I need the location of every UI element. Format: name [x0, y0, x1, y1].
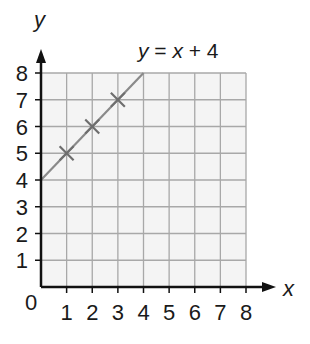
x-tick-label: 4: [137, 300, 149, 325]
x-tick-label: 6: [189, 300, 201, 325]
coordinate-plane: 1234567812345678 y x 0 y = x + 4: [0, 0, 310, 344]
y-axis-label: y: [32, 7, 47, 32]
y-tick-label: 8: [16, 61, 28, 86]
x-tick-label: 8: [240, 300, 252, 325]
x-tick-label: 3: [112, 300, 124, 325]
y-tick-label: 1: [16, 248, 28, 273]
y-tick-label: 7: [16, 88, 28, 113]
x-axis-label: x: [282, 276, 295, 301]
y-tick-label: 5: [16, 141, 28, 166]
y-tick-label: 2: [16, 222, 28, 247]
y-tick-label: 4: [16, 168, 28, 193]
y-tick-label: 6: [16, 115, 28, 140]
x-tick-label: 1: [61, 300, 73, 325]
x-axis-arrow-icon: [262, 282, 276, 292]
equation-annotation: y = x + 4: [136, 39, 219, 62]
y-axis-arrow-icon: [36, 49, 46, 63]
x-tick-label: 7: [214, 300, 226, 325]
grid: [41, 73, 246, 287]
origin-label: 0: [25, 290, 37, 315]
y-tick-label: 3: [16, 195, 28, 220]
x-tick-label: 5: [163, 300, 175, 325]
x-tick-label: 2: [86, 300, 98, 325]
